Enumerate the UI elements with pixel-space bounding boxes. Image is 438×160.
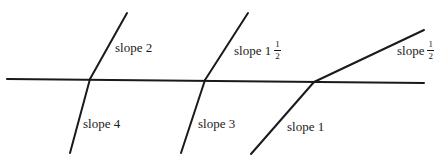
fraction-denominator: 2: [428, 51, 433, 61]
label-text: slope 3: [198, 117, 235, 130]
slope-diagram: slope 2 slope 4 slope 1 1 2 slope 3 slop…: [0, 0, 438, 160]
label-slope-2: slope 2: [115, 41, 152, 54]
label-text: slope 4: [83, 117, 120, 130]
label-slope-4: slope 4: [83, 117, 120, 130]
label-text: slope 1: [287, 120, 324, 133]
label-slope-3: slope 3: [198, 117, 235, 130]
label-text: slope: [397, 44, 424, 57]
lower-segment-3: [251, 82, 314, 154]
fraction-numerator: 1: [274, 40, 281, 51]
label-slope-half: slope 1 2: [397, 40, 434, 61]
fraction: 1 2: [274, 40, 281, 61]
label-text: slope 2: [115, 41, 152, 54]
fraction: 1 2: [427, 40, 434, 61]
diagram-lines: [0, 0, 438, 160]
fraction-denominator: 2: [275, 51, 280, 61]
label-slope-1: slope 1: [287, 120, 324, 133]
label-text: slope 1: [234, 44, 271, 57]
label-slope-1-and-a-half: slope 1 1 2: [234, 40, 281, 61]
horizontal-axis-line: [7, 79, 424, 83]
fraction-numerator: 1: [427, 40, 434, 51]
